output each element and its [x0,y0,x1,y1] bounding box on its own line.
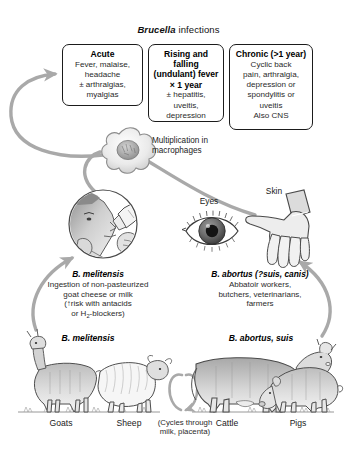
arrow-animal-cycle [169,374,197,410]
route-melitensis-line4: or H2-blockers) [22,309,174,321]
route-abortus-species: B. abortus (?suis, canis) [180,270,340,280]
figure-title-species: Brucella [137,24,175,35]
clinical-box-acute-heading: Acute [66,49,139,59]
macrophage-label: Multiplication in macrophages [152,136,247,156]
route-melitensis-line4-pre: or H [71,309,86,318]
route-abortus: B. abortus (?suis, canis) Abbatoir worke… [180,270,340,309]
figure-title: Brucella infections [0,24,357,35]
clinical-box-chronic: Chronic (>1 year) Cyclic back pain, arth… [229,44,313,130]
animal-label-goats: Goats [34,418,88,428]
figure-title-rest: infections [176,24,220,35]
clinical-box-undulant-fever: Rising and falling (undulant) fever × 1 … [148,44,224,122]
reservoir-group-label-melitensis: B. melitensis [28,333,148,343]
clinical-box-chronic-body: Cyclic back pain, arthralgia, depression… [233,60,309,121]
reservoir-group-label-abortus: B. abortus, suis [196,333,326,343]
route-melitensis-line4-post: -blockers) [90,309,125,318]
sheep-illustration [98,355,172,412]
clinical-box-undulant-heading: Rising and falling (undulant) fever × 1 … [152,49,220,90]
animal-cycle-note: (Cycles through milk, placenta) [136,418,234,437]
skin-label: Skin [254,186,294,196]
clinical-box-chronic-heading: Chronic (>1 year) [233,49,309,59]
route-abortus-detail: Abbatoir workers, butchers, veterinarian… [180,280,340,309]
route-melitensis-line1: Ingestion of non-pasteurized [22,280,174,290]
clinical-box-acute: Acute Fever, malaise, headache ± arthral… [62,44,143,106]
clinical-box-acute-body: Fever, malaise, headache ± arthralgias, … [66,60,139,101]
route-melitensis-species: B. melitensis [22,270,174,280]
clinical-box-undulant-body: ± hepatitis, uveitis, depression [152,90,220,121]
route-melitensis-line2: goat cheese or milk [22,290,174,300]
hand-illustration [246,190,310,267]
eyes-label: Eyes [185,196,233,206]
eye-illustration [182,211,238,252]
arrow-ingestion-to-macrophage [85,152,100,196]
macrophage-icon [102,128,156,173]
brucella-infection-diagram: Brucella infections Acute Fever, malaise… [0,0,357,450]
route-melitensis: B. melitensis Ingestion of non-pasteuriz… [22,270,174,321]
route-melitensis-line3: (↑risk with antacids [22,299,174,309]
animal-label-pigs: Pigs [276,418,320,428]
person-drinking-milk-illustration [66,190,152,266]
